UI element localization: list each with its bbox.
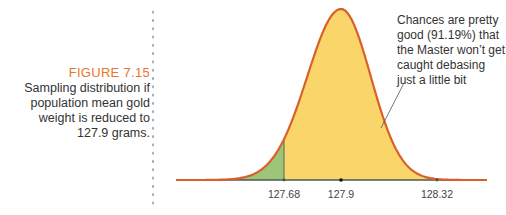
x-tick-mark [339,178,343,182]
x-tick-mark [436,179,439,182]
annotation-line: good (91.19%) that [397,28,500,42]
x-tick-mark [283,179,286,182]
annotation-line: Chances are pretty [397,13,498,27]
x-tick-label: 128.32 [421,188,453,200]
annotation-line: the Master won’t get [397,43,506,57]
annotation-line: just a little bit [396,73,467,87]
left-tail-region [176,139,284,180]
callout-line [381,83,404,128]
annotation-line: caught debasing [397,58,485,72]
x-tick-label: 127.68 [268,188,300,200]
x-tick-label: 127.9 [328,188,354,200]
normal-distribution-chart: 127.68127.9128.32 Chances are pretty goo… [0,0,506,215]
